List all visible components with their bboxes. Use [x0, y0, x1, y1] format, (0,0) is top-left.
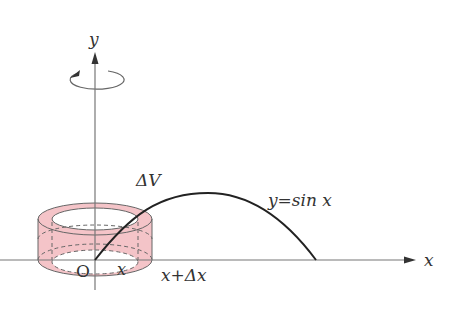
inner-radius-label: x — [117, 260, 126, 279]
outer-radius-label: x+Δx — [161, 265, 207, 285]
shell-method-diagram: y x O ΔV y=sin x x x+Δx — [0, 0, 460, 316]
origin-label: O — [76, 261, 90, 281]
curve-label: y=sin x — [267, 190, 332, 210]
x-axis-label: x — [424, 250, 434, 270]
y-axis-label: y — [88, 29, 99, 49]
delta-v-label: ΔV — [135, 170, 162, 190]
rotation-arrow-icon — [70, 70, 124, 89]
